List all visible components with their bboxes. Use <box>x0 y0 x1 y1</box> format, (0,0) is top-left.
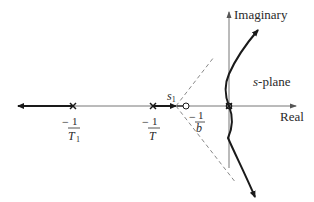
imaginary-axis-label: Imaginary <box>234 7 288 22</box>
asymptote-upper <box>176 57 214 106</box>
svg-text:−: − <box>189 110 196 124</box>
pole-label-t1: − 1 T 1 <box>62 115 80 144</box>
root-locus-diagram: Imaginary Real s-plane s1 − 1 T 1 − 1 T … <box>0 0 314 202</box>
svg-text:b: b <box>196 121 202 135</box>
zero-label-b: − 1 b <box>189 109 205 135</box>
svg-text:1: 1 <box>76 135 80 144</box>
pole-label-t: − 1 T <box>142 115 160 143</box>
svg-text:1: 1 <box>198 109 204 121</box>
asymptote-lower <box>176 106 236 183</box>
locus-lower-branch <box>228 106 255 197</box>
svg-text:1: 1 <box>72 115 78 127</box>
locus-upper-branch <box>226 30 258 106</box>
s-plane-label: s-plane <box>253 74 291 89</box>
breakaway-label: s1 <box>167 89 176 104</box>
svg-text:−: − <box>142 115 149 129</box>
pole-marker-origin <box>226 103 232 109</box>
svg-text:1: 1 <box>152 115 158 127</box>
real-axis-label: Real <box>280 109 304 124</box>
zero-marker <box>183 103 189 109</box>
svg-text:T: T <box>149 129 157 143</box>
svg-text:−: − <box>62 115 69 129</box>
svg-text:T: T <box>68 129 76 143</box>
